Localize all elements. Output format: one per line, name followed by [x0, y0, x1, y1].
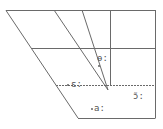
vowel-label-epsilon: ɛ: — [71, 80, 82, 89]
diagonal-line-2 — [82, 10, 108, 90]
diagonal-line-1 — [54, 10, 108, 90]
vowel-dot-oe — [98, 65, 100, 67]
vowel-label-open-o-nasal: ɔ̃: — [133, 92, 144, 101]
vowel-trapezoid-chart — [0, 0, 163, 129]
vowel-label-a: a: — [94, 104, 105, 113]
vowel-dot-epsilon — [67, 84, 69, 86]
vowel-dot-a — [91, 108, 93, 110]
vowel-label-oe: ɵ: — [97, 54, 108, 63]
left-slanted-edge — [6, 11, 78, 119]
